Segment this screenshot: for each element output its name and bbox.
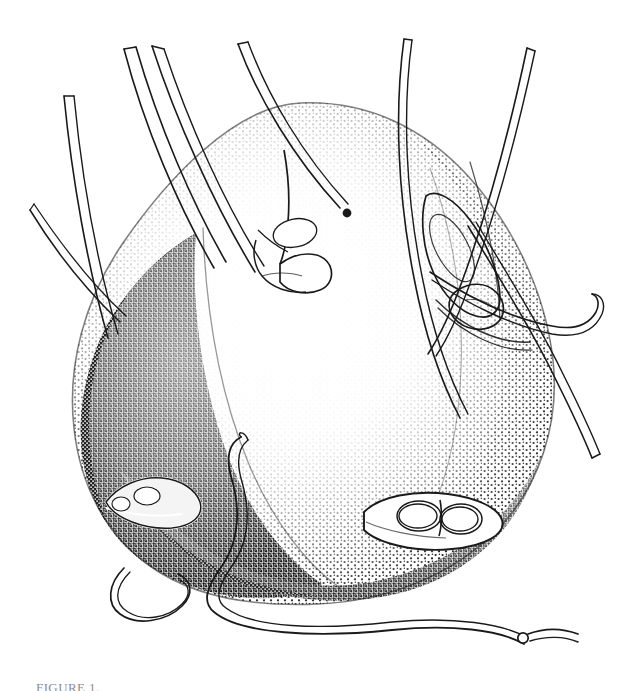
ventral-seta-terminal-hook [518, 630, 578, 644]
figure-caption: FIGURE 1. [36, 681, 100, 691]
idiosoma-shading [60, 90, 580, 620]
mite-illustration [0, 0, 637, 691]
illustration-plate: FIGURE 1. [0, 0, 637, 691]
